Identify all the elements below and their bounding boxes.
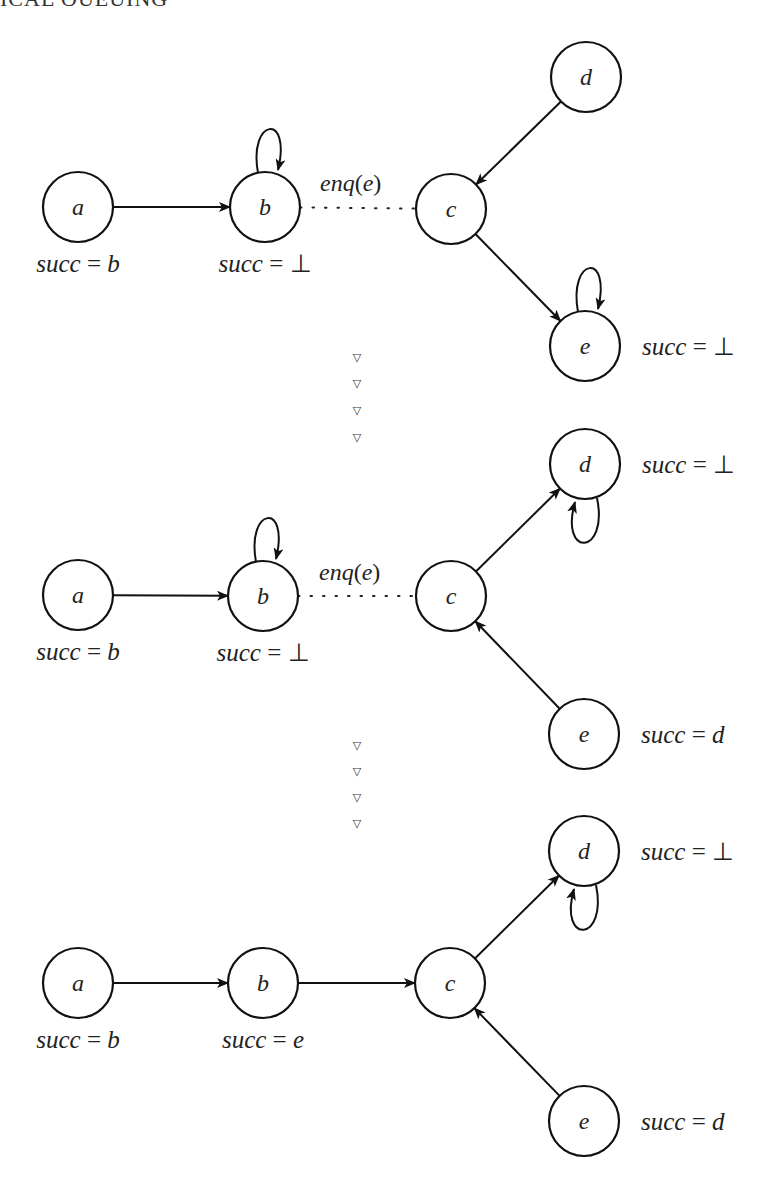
node-d: d <box>549 816 619 886</box>
node-c: c <box>416 561 486 631</box>
node-label: e <box>579 721 590 747</box>
edge-e-to-c <box>475 621 559 709</box>
edge-d-to-c <box>476 101 561 184</box>
succ-label-a: succ = b <box>36 250 120 277</box>
node-c: c <box>416 174 486 244</box>
transitions-layer: ▽▽▽▽▽▽▽▽ <box>353 351 362 830</box>
node-label: c <box>445 970 456 996</box>
edge-c-to-e <box>475 234 560 321</box>
succ-label-d: succ = ⊥ <box>642 451 735 478</box>
edge-a-to-b <box>113 595 228 596</box>
node-label: a <box>72 194 84 220</box>
node-label: d <box>578 838 591 864</box>
transition-arrow-icon: ▽ <box>353 765 362 778</box>
enqueue-operation-label: enq(e) <box>320 170 381 196</box>
edges-layer <box>113 101 601 1095</box>
transition-arrow-icon: ▽ <box>353 431 362 444</box>
succ-label-b: succ = e <box>222 1026 304 1053</box>
node-label: a <box>72 970 84 996</box>
node-label: b <box>257 583 269 609</box>
node-e: e <box>549 1086 619 1156</box>
edge-c-to-d <box>475 876 559 959</box>
self-loop-b <box>257 129 281 173</box>
node-label: a <box>72 582 84 608</box>
succ-label-e: succ = d <box>641 721 725 748</box>
node-e: e <box>550 311 620 381</box>
node-a: a <box>43 560 113 630</box>
enqueue-operation-label: enq(e) <box>319 559 380 585</box>
transition-arrow-icon: ▽ <box>353 739 362 752</box>
node-label: e <box>579 1108 590 1134</box>
edge-b-to-c-pending <box>300 207 416 208</box>
labels-layer: enq(e)succ = bsucc = ⊥succ = ⊥enq(e)succ… <box>36 170 735 1135</box>
succ-label-e: succ = ⊥ <box>642 333 735 360</box>
nodes-layer: abcdeabcdeabcde <box>43 42 621 1156</box>
transition-arrow-icon: ▽ <box>353 377 362 390</box>
transition-arrow-icon: ▽ <box>353 404 362 417</box>
self-loop-e <box>577 268 601 312</box>
succ-label-b: succ = ⊥ <box>218 250 311 277</box>
succ-label-a: succ = b <box>36 1026 120 1053</box>
succ-label-b: succ = ⊥ <box>216 639 309 666</box>
queue-state-diagram: abcdeabcdeabcde enq(e)succ = bsucc = ⊥su… <box>0 0 781 1192</box>
node-label: d <box>579 451 592 477</box>
succ-label-d: succ = ⊥ <box>641 838 734 865</box>
transition-arrow-icon: ▽ <box>353 351 362 364</box>
node-label: d <box>580 64 593 90</box>
self-loop-b <box>255 518 279 562</box>
node-c: c <box>415 948 485 1018</box>
node-a: a <box>43 172 113 242</box>
node-e: e <box>549 699 619 769</box>
node-d: d <box>551 42 621 112</box>
node-b: b <box>230 172 300 242</box>
self-loop-d <box>571 885 598 930</box>
node-label: e <box>580 333 591 359</box>
node-b: b <box>228 948 298 1018</box>
succ-label-e: succ = d <box>641 1108 725 1135</box>
edge-c-to-d <box>476 489 560 572</box>
node-label: c <box>446 196 457 222</box>
node-a: a <box>43 948 113 1018</box>
node-label: c <box>446 583 457 609</box>
node-b: b <box>228 561 298 631</box>
transition-arrow-icon: ▽ <box>353 817 362 830</box>
self-loop-d <box>572 498 599 543</box>
transition-arrow-icon: ▽ <box>353 791 362 804</box>
node-label: b <box>257 970 269 996</box>
node-label: b <box>259 194 271 220</box>
node-d: d <box>550 429 620 499</box>
succ-label-a: succ = b <box>36 638 120 665</box>
edge-e-to-c <box>474 1008 559 1096</box>
